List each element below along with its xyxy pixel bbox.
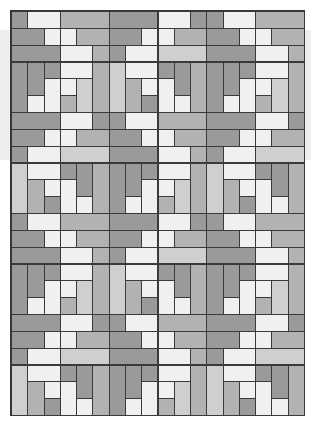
quilt-patch — [206, 365, 223, 417]
quilt-patch — [174, 230, 208, 248]
quilt-patch — [288, 62, 305, 114]
quilt-patch — [206, 112, 256, 130]
quilt-patch — [239, 264, 256, 282]
quilt-patch — [158, 179, 175, 197]
quilt-patch — [223, 163, 257, 181]
quilt-patch — [125, 196, 142, 214]
quilt-patch — [44, 398, 61, 416]
quilt-patch — [190, 146, 207, 164]
quilt-patch — [255, 163, 272, 181]
quilt-patch — [239, 196, 256, 214]
quilt-patch — [288, 365, 305, 417]
quilt-patch — [109, 146, 159, 164]
quilt-patch — [288, 247, 305, 265]
quilt-patch — [141, 230, 158, 248]
quilt-patch — [109, 314, 126, 332]
quilt-patch — [109, 213, 159, 231]
quilt-patch — [44, 62, 61, 80]
quilt-patch — [76, 398, 93, 416]
quilt-patch — [239, 398, 256, 416]
scan-shadow-left — [0, 30, 10, 160]
quilt-patch — [271, 163, 288, 198]
quilt-patch — [255, 129, 272, 147]
quilt-patch — [76, 78, 93, 113]
quilt-patch — [190, 163, 207, 215]
quilt-patch — [271, 280, 288, 315]
quilt-patch — [158, 230, 175, 248]
quilt-patch — [190, 264, 207, 316]
quilt-patch — [44, 179, 61, 197]
quilt-patch — [271, 196, 288, 214]
quilt-patch — [239, 331, 256, 349]
quilt-patch — [125, 247, 159, 265]
quilt-patch — [27, 297, 44, 315]
quilt-patch — [206, 28, 240, 46]
quilt-patch — [255, 247, 289, 265]
quilt-patch — [223, 95, 240, 113]
quilt-patch — [158, 62, 175, 80]
quilt-patch — [109, 62, 126, 114]
quilt-patch — [11, 314, 61, 332]
quilt-patch — [158, 365, 192, 383]
quilt-patch — [125, 78, 142, 113]
quilt-patch — [11, 264, 28, 316]
quilt-patch — [44, 196, 61, 214]
quilt-patch — [223, 264, 240, 299]
quilt-patch — [60, 112, 94, 130]
quilt-patch — [60, 213, 110, 231]
quilt-patch — [92, 264, 109, 316]
quilt-patch — [190, 62, 207, 114]
quilt-patch — [11, 129, 45, 147]
quilt-patch — [255, 213, 305, 231]
quilt-patch — [125, 314, 159, 332]
quilt-patch — [27, 264, 44, 299]
quilt-patch — [255, 146, 305, 164]
quilt-patch — [255, 230, 272, 248]
quilt-patch — [60, 163, 77, 181]
quilt-patch — [60, 314, 94, 332]
quilt-patch — [76, 280, 93, 315]
quilt-patch — [60, 264, 94, 282]
quilt-patch — [206, 264, 223, 316]
quilt-patch — [92, 45, 109, 63]
quilt-patch — [288, 264, 305, 316]
quilt-patch — [158, 398, 175, 416]
quilt-patch — [92, 247, 109, 265]
quilt-patch — [174, 179, 191, 214]
quilt-patch — [141, 78, 158, 96]
quilt-patch — [223, 297, 240, 315]
quilt-patch — [109, 365, 126, 417]
quilt-patch — [76, 163, 93, 198]
quilt-patch — [271, 365, 288, 400]
quilt-patch — [158, 381, 175, 399]
quilt-patch — [109, 230, 143, 248]
quilt-patch — [158, 146, 192, 164]
quilt-patch — [141, 28, 158, 46]
quilt-patch — [60, 348, 110, 366]
quilt-patch — [158, 78, 175, 113]
quilt-patch — [11, 230, 45, 248]
quilt-patch — [271, 398, 288, 416]
quilt-patch — [271, 78, 288, 113]
quilt-patch — [109, 264, 126, 316]
quilt-patch — [255, 331, 272, 349]
quilt-patch — [11, 62, 28, 114]
quilt-patch — [223, 213, 257, 231]
quilt-patch — [60, 247, 94, 265]
quilt-patch — [60, 230, 77, 248]
quilt-patch — [239, 179, 256, 197]
quilt-patch — [11, 247, 61, 265]
quilt-patch — [206, 45, 256, 63]
quilt-patch — [255, 365, 272, 383]
quilt-patch — [109, 28, 143, 46]
quilt-patch — [141, 179, 158, 214]
quilt-patch — [109, 112, 126, 130]
quilt-patch — [239, 129, 256, 147]
quilt-patch — [92, 314, 109, 332]
quilt-patch — [60, 95, 77, 113]
quilt-patch — [223, 365, 257, 383]
quilt-patch — [206, 213, 223, 231]
quilt-patch — [27, 146, 61, 164]
quilt-patch — [27, 381, 44, 416]
quilt-patch — [206, 348, 223, 366]
